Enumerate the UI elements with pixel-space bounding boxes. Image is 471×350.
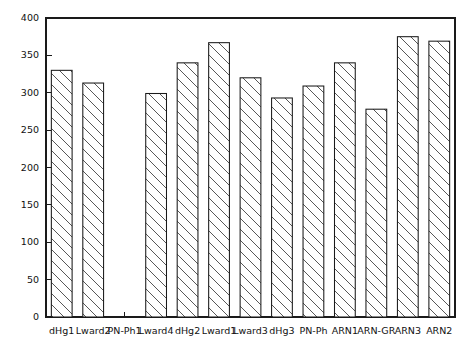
- y-axis-ticks: 050100150200250300350400: [21, 12, 52, 322]
- bar: [83, 83, 104, 317]
- bar: [146, 94, 167, 318]
- bar: [335, 63, 356, 317]
- bar: [177, 63, 198, 317]
- chart-canvas: 050100150200250300350400 dHg1Lward2PN-Ph…: [0, 0, 471, 350]
- bar: [429, 41, 450, 317]
- bar-chart-figure: 050100150200250300350400 dHg1Lward2PN-Ph…: [0, 0, 471, 350]
- bar: [397, 37, 418, 317]
- x-tick-label: ARN-GR: [357, 325, 395, 336]
- bar: [366, 109, 387, 317]
- x-tick-label: Lward1: [202, 325, 237, 336]
- bar-series: [51, 37, 449, 317]
- bar: [272, 98, 293, 317]
- x-tick-label: ARN2: [426, 325, 452, 336]
- x-tick-label: ARN3: [395, 325, 421, 336]
- bar: [240, 78, 261, 317]
- y-tick-label: 400: [21, 12, 39, 23]
- x-tick-label: Lward4: [139, 325, 174, 336]
- y-tick-label: 50: [27, 274, 39, 285]
- y-tick-label: 200: [21, 162, 39, 173]
- y-tick-label: 0: [33, 311, 39, 322]
- bar: [51, 70, 72, 317]
- x-tick-label: dHg3: [269, 325, 294, 336]
- x-axis-labels: dHg1Lward2PN-Ph1Lward4dHg2Lward1Lward3dH…: [49, 325, 452, 336]
- x-tick-label: Lward3: [233, 325, 268, 336]
- x-tick-label: PN-Ph1: [108, 325, 142, 336]
- y-tick-label: 300: [21, 87, 39, 98]
- x-tick-label: PN-Ph: [299, 325, 327, 336]
- bar: [209, 43, 230, 317]
- y-tick-label: 100: [21, 236, 39, 247]
- y-tick-label: 350: [21, 49, 39, 60]
- x-tick-label: ARN1: [332, 325, 358, 336]
- x-tick-label: dHg2: [175, 325, 200, 336]
- y-tick-label: 150: [21, 199, 39, 210]
- bar: [303, 86, 324, 317]
- x-tick-label: Lward2: [76, 325, 111, 336]
- y-tick-label: 250: [21, 124, 39, 135]
- x-tick-label: dHg1: [49, 325, 74, 336]
